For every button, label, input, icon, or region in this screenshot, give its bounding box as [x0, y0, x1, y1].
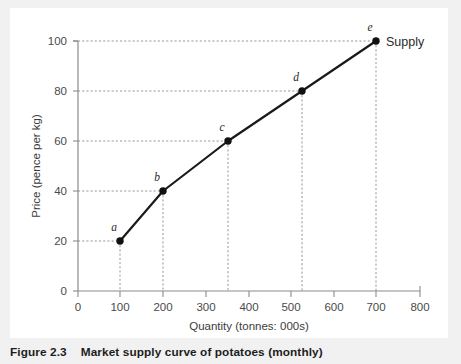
- data-point-labels: a b c d e: [111, 21, 372, 233]
- x-tick-label-0: 0: [75, 301, 81, 313]
- y-tick-label-20: 20: [54, 235, 67, 247]
- chart-card: 0 20 40 60 80 100 0 100 200 300 400 500 …: [10, 8, 448, 338]
- x-tick-label-500: 500: [281, 301, 300, 313]
- data-point-label-c: c: [219, 121, 224, 133]
- y-tick-label-0: 0: [61, 285, 67, 297]
- y-tick-label-40: 40: [54, 185, 67, 197]
- data-point-label-a: a: [111, 221, 117, 233]
- data-point-markers: [116, 37, 379, 244]
- figure-container: 0 20 40 60 80 100 0 100 200 300 400 500 …: [0, 0, 461, 364]
- supply-series-label: Supply: [386, 35, 425, 49]
- x-tick-label-300: 300: [196, 301, 215, 313]
- data-point-label-e: e: [367, 21, 372, 33]
- x-tick-label-700: 700: [366, 301, 385, 313]
- y-axis-ticks: [73, 41, 78, 291]
- figure-caption-text: Market supply curve of potatoes (monthly…: [81, 345, 323, 359]
- vertical-guide-lines: [120, 41, 376, 291]
- data-point-c[interactable]: [224, 137, 231, 144]
- figure-caption-number: Figure 2.3: [10, 345, 67, 359]
- x-axis-tick-labels: 0 100 200 300 400 500 600 700 800: [75, 301, 430, 313]
- x-axis-title: Quantity (tonnes: 000s): [189, 320, 309, 332]
- data-point-e[interactable]: [372, 37, 379, 44]
- y-tick-label-80: 80: [54, 85, 67, 97]
- data-point-d[interactable]: [298, 87, 305, 94]
- x-tick-label-800: 800: [410, 301, 429, 313]
- x-tick-label-200: 200: [153, 301, 172, 313]
- x-axis-ticks: [78, 291, 420, 297]
- data-point-b[interactable]: [159, 187, 166, 194]
- x-tick-label-600: 600: [324, 301, 343, 313]
- y-axis-title: Price (pence per kg): [30, 114, 42, 218]
- x-tick-label-400: 400: [239, 301, 258, 313]
- supply-curve-chart: 0 20 40 60 80 100 0 100 200 300 400 500 …: [10, 8, 448, 338]
- data-point-a[interactable]: [116, 237, 123, 244]
- x-tick-label-100: 100: [110, 301, 129, 313]
- chart-axes: [73, 41, 420, 291]
- figure-caption: Figure 2.3Market supply curve of potatoe…: [10, 345, 450, 359]
- y-tick-label-60: 60: [54, 135, 67, 147]
- y-tick-label-100: 100: [48, 35, 67, 47]
- y-axis-tick-labels: 0 20 40 60 80 100: [48, 35, 67, 297]
- data-point-label-d: d: [293, 71, 299, 83]
- data-point-label-b: b: [154, 171, 160, 183]
